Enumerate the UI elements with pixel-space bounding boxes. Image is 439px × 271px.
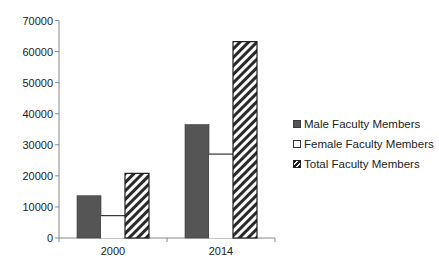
- y-tick-label: 10000: [22, 201, 53, 213]
- legend-label: Female Faculty Members: [304, 138, 434, 150]
- legend: Male Faculty Members Female Faculty Memb…: [293, 114, 434, 174]
- legend-item-total: Total Faculty Members: [293, 154, 434, 174]
- bar: [233, 42, 257, 238]
- bar: [185, 125, 209, 238]
- legend-label: Total Faculty Members: [304, 158, 420, 170]
- legend-swatch-female: [293, 140, 301, 148]
- legend-item-male: Male Faculty Members: [293, 114, 434, 134]
- y-tick-label: 20000: [22, 170, 53, 182]
- legend-label: Male Faculty Members: [304, 118, 420, 130]
- y-tick-label: 30000: [22, 139, 53, 151]
- bar: [101, 216, 125, 238]
- x-tick-label: 2014: [191, 245, 251, 257]
- legend-swatch-male: [293, 120, 301, 128]
- bar: [125, 173, 149, 238]
- y-tick-label: 0: [47, 232, 53, 244]
- bar-chart: 010000200003000040000500006000070000 200…: [0, 0, 439, 271]
- y-tick-label: 70000: [22, 15, 53, 27]
- legend-item-female: Female Faculty Members: [293, 134, 434, 154]
- y-tick-label: 40000: [22, 108, 53, 120]
- bar: [77, 196, 101, 238]
- legend-swatch-total: [293, 160, 301, 168]
- y-tick-label: 50000: [22, 77, 53, 89]
- y-tick-label: 60000: [22, 46, 53, 58]
- bar: [209, 154, 233, 238]
- x-tick-label: 2000: [83, 245, 143, 257]
